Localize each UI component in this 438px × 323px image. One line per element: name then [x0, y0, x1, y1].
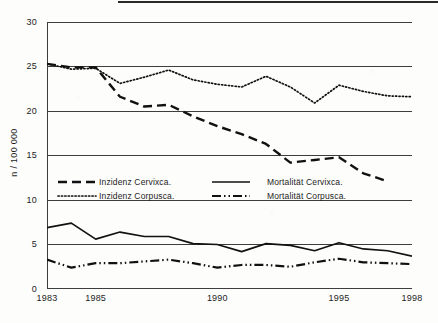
legend-swatch-mortalitaet-corpusca	[211, 190, 251, 202]
series-line-inzidenz-corpusca	[47, 64, 412, 103]
legend-swatch-inzidenz-cervixca	[57, 176, 97, 188]
y-axis-title: n / 100 000	[10, 118, 19, 188]
legend-label-inzidenz-corpusca: Inzidenz Corpusca.	[99, 192, 211, 201]
y-axis-tick-labels: 051015202530	[0, 0, 45, 323]
y-tick-label-30: 30	[27, 18, 37, 27]
legend-label-mortalitaet-corpusca: Mortalität Corpusca.	[267, 192, 346, 201]
series-line-mortalit-t-cervixca	[47, 223, 412, 256]
legend-label-inzidenz-cervixca: Inzidenz Cervixca.	[99, 178, 211, 187]
y-tick-label-15: 15	[27, 151, 37, 160]
series-line-mortalit-t-corpusca	[47, 259, 412, 268]
y-tick-label-25: 25	[27, 62, 37, 71]
figure-chart: 051015202530 n / 100 000 198319851990199…	[0, 0, 438, 323]
legend-swatch-mortalitaet-cervixca	[211, 176, 251, 188]
x-tick-label-1990: 1990	[207, 294, 228, 303]
x-tick-label-1998: 1998	[402, 294, 423, 303]
legend-swatch-inzidenz-corpusca	[57, 190, 97, 202]
plot-area	[47, 22, 412, 289]
chart-legend: Inzidenz Cervixca. Mortalität Cervixca. …	[57, 175, 325, 203]
y-tick-label-20: 20	[27, 107, 37, 116]
chart-canvas	[47, 22, 412, 289]
series-line-inzidenz-cervixca	[47, 64, 388, 181]
page-rule	[118, 1, 438, 3]
x-tick-label-1985: 1985	[85, 294, 106, 303]
y-tick-label-10: 10	[27, 196, 37, 205]
legend-label-mortalitaet-cervixca: Mortalität Cervixca.	[267, 178, 346, 187]
x-tick-label-1995: 1995	[329, 294, 350, 303]
x-tick-label-1983: 1983	[37, 294, 58, 303]
y-tick-label-5: 5	[32, 240, 37, 249]
